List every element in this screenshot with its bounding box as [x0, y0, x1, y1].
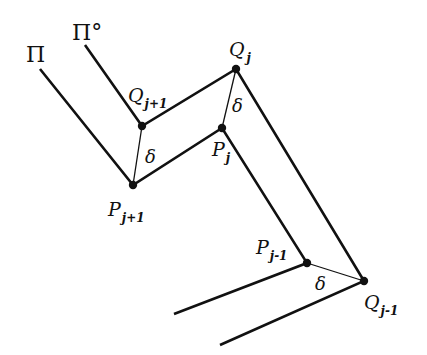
label-p-j-sub: j — [224, 151, 231, 165]
polyline-diagram: Π Π° Qj+1 Pj+1 Qj Pj Pj-1 Qj-1 δ δ δ — [0, 0, 427, 355]
label-pi: Π — [26, 42, 45, 67]
label-q-j+1-sub: j+1 — [143, 97, 168, 111]
label-p-j: Pj — [211, 138, 231, 165]
label-q-j: Qj — [229, 38, 252, 65]
label-q-j-sub: j — [245, 51, 252, 65]
vertex-q-j-1 — [360, 277, 368, 285]
vertex-p-j-1 — [303, 259, 311, 267]
vertex-p-j — [218, 124, 226, 132]
delta-connector-j+1 — [133, 126, 142, 185]
vertex-q-j — [232, 65, 240, 73]
label-delta-j+1: δ — [145, 146, 156, 167]
vertex-q-j+1 — [138, 122, 146, 130]
label-q-j-1: Qj-1 — [364, 291, 398, 318]
vertex-p-j+1 — [129, 181, 137, 189]
label-pi-circ: Π° — [72, 20, 102, 45]
label-p-j+1-sub: j+1 — [120, 211, 145, 225]
label-delta-j: δ — [232, 95, 243, 116]
curve-pi-circ — [85, 45, 364, 345]
label-p-j+1: Pj+1 — [107, 198, 145, 225]
label-q-j-1-sub: j-1 — [379, 304, 399, 318]
label-q-j+1: Qj+1 — [128, 84, 167, 111]
label-delta-j-1: δ — [315, 273, 326, 294]
label-p-j-1-sub: j-1 — [268, 249, 288, 263]
label-p-j-1: Pj-1 — [255, 236, 287, 263]
